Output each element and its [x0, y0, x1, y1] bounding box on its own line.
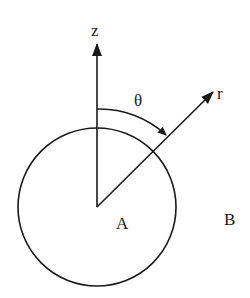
- spherical-coordinate-diagram: z r θ A B: [0, 0, 250, 298]
- theta-label: θ: [134, 91, 142, 110]
- theta-angle-arc: [97, 109, 166, 135]
- r-axis-label: r: [217, 84, 223, 103]
- z-axis-label: z: [91, 21, 99, 40]
- r-axis-arrow: [97, 92, 213, 207]
- region-a-label: A: [116, 214, 129, 233]
- region-b-label: B: [224, 210, 235, 229]
